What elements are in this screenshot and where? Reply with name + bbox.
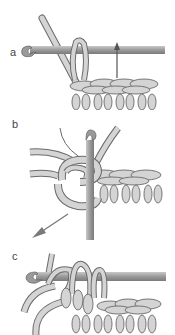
panel-b: b bbox=[0, 110, 175, 240]
crochet-illustration-b bbox=[0, 110, 175, 240]
crochet-illustration-c bbox=[0, 240, 175, 335]
panel-c: c bbox=[0, 240, 175, 335]
crochet-illustration-a bbox=[0, 0, 175, 110]
panel-a: a bbox=[0, 0, 175, 110]
